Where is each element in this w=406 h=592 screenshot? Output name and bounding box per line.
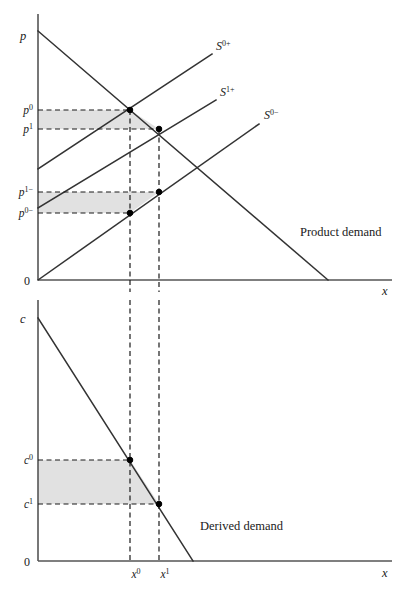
marker-point-E	[127, 210, 133, 216]
top-panel-caption: Product demand	[300, 225, 382, 239]
shade-lower-surplus	[38, 192, 159, 213]
bottom-y-axis-label: c	[20, 312, 26, 326]
tick-label-x0: x0	[130, 567, 140, 581]
top-panel: p x 0 p0 p1 p1− p0− S0+ S1+	[18, 14, 392, 298]
product-demand-curve	[38, 31, 328, 280]
tick-label-c1: c1	[24, 497, 33, 511]
tick-label-c0: c0	[24, 453, 33, 467]
top-x-axis-label: x	[381, 284, 388, 298]
tick-label-p0minus: p0−	[18, 206, 34, 221]
top-origin-label: 0	[24, 274, 30, 288]
tick-label-x1: x1	[159, 567, 169, 581]
bottom-origin-label: 0	[24, 555, 30, 569]
curve-label-S1plus: S1+	[220, 85, 235, 100]
curve-label-S0minus: S0−	[264, 108, 279, 123]
tick-label-p1minus: p1−	[18, 185, 34, 200]
marker-point-F	[127, 457, 133, 463]
top-y-axis-label: p	[19, 29, 26, 43]
shade-derived-surplus	[38, 460, 159, 504]
bottom-panel: c x 0 c0 c1 x0 x1 Derived demand	[20, 300, 392, 580]
economics-figure: p x 0 p0 p1 p1− p0− S0+ S1+	[0, 0, 406, 592]
marker-point-G	[156, 501, 162, 507]
bottom-panel-caption: Derived demand	[200, 519, 284, 533]
derived-demand-curve	[38, 318, 193, 561]
marker-equilibrium-A	[127, 107, 133, 113]
curve-label-S0plus: S0+	[216, 39, 231, 54]
tick-label-p0: p0	[22, 103, 33, 118]
marker-point-C	[156, 189, 162, 195]
marker-equilibrium-B	[156, 126, 162, 132]
bottom-x-axis-label: x	[381, 566, 388, 580]
tick-label-p1: p1	[22, 122, 33, 137]
figure-canvas: p x 0 p0 p1 p1− p0− S0+ S1+	[0, 0, 406, 592]
